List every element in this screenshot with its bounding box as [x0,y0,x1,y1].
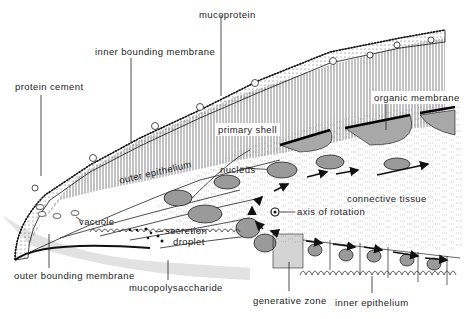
vacuoles [36,205,79,219]
label-secretion: secretion [165,225,207,236]
label-protein-cement: protein cement [15,81,83,92]
label-organic-membrane: organic membrane [372,91,462,104]
label-mucopolysaccharide: mucopolysaccharide [129,282,223,293]
label-mucoprotein: mucoprotein [199,9,256,20]
label-inner-bounding-membrane: inner bounding membrane [95,46,215,57]
label-vacuole: vacuole [79,216,115,227]
label-connective-tissue: connective tissue [347,193,427,204]
label-nucleus: nucleus [220,164,256,175]
label-outer-bounding-membrane: outer bounding membrane [14,270,135,281]
generative-zone-region [273,234,303,268]
label-inner-epithelium: inner epithelium [335,297,408,308]
label-generative-zone: generative zone [253,295,327,306]
label-axis-of-rotation: axis of rotation [297,206,365,217]
diagram-canvas: mucoprotein inner bounding membrane prot… [0,0,475,319]
label-primary-shell: primary shell [215,123,280,136]
label-droplet: droplet [173,236,205,247]
